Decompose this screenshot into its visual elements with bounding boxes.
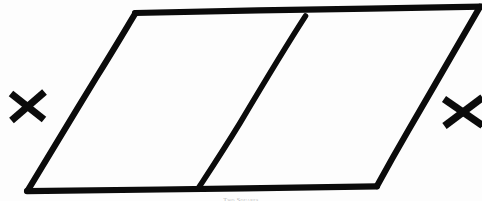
figure-canvas: Two Squares xyxy=(0,0,482,201)
right-edge xyxy=(377,7,480,186)
left-x-mark xyxy=(11,92,45,121)
two-squares-diagram xyxy=(0,0,482,201)
middle-divider xyxy=(199,16,306,188)
left-edge xyxy=(28,13,136,191)
top-edge xyxy=(135,7,481,13)
right-x-mark xyxy=(444,98,482,127)
